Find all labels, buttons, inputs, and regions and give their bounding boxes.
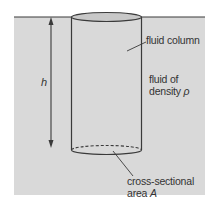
height-label: h	[41, 76, 47, 88]
area-symbol: A	[150, 187, 157, 199]
fluid-density-label-line1: fluid of	[149, 73, 178, 85]
column-top-ellipse	[72, 13, 142, 22]
cross-section-label-line2: area A	[127, 187, 157, 199]
fluid-density-label-line2: density ρ	[149, 85, 189, 97]
cross-section-label-line1: cross-sectional	[127, 175, 194, 187]
fluid-column-diagram: h fluid column fluid of density ρ cross-…	[0, 0, 213, 206]
fluid-column-label: fluid column	[146, 34, 200, 46]
density-word: density	[149, 85, 181, 97]
density-symbol: ρ	[184, 85, 190, 97]
area-word: area	[127, 187, 147, 199]
